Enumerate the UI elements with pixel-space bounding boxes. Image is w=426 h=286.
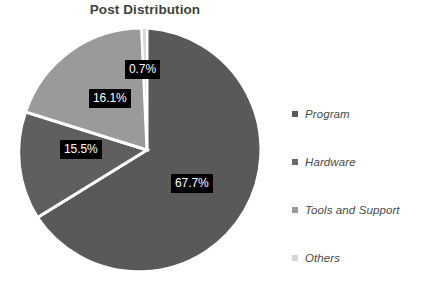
pie-chart-figure: Post Distribution 67.7% 15.5% 16.1% 0.7%…	[0, 0, 426, 286]
pie-plot-area: 67.7% 15.5% 16.1% 0.7%	[0, 0, 300, 286]
chart-legend: Program Hardware Tools and Support Other…	[292, 90, 426, 282]
legend-swatch-icon	[292, 111, 298, 117]
legend-swatch-icon	[292, 159, 298, 165]
legend-label: Others	[305, 252, 340, 264]
legend-swatch-icon	[292, 255, 298, 261]
data-label-others: 0.7%	[125, 60, 160, 79]
data-label-tools-and-support: 16.1%	[89, 89, 131, 108]
legend-item-tools-and-support[interactable]: Tools and Support	[292, 186, 426, 234]
pie-svg	[0, 0, 300, 286]
legend-item-others[interactable]: Others	[292, 234, 426, 282]
data-label-program: 67.7%	[171, 174, 213, 193]
legend-label: Program	[305, 108, 350, 120]
legend-label: Hardware	[305, 156, 356, 168]
legend-item-hardware[interactable]: Hardware	[292, 138, 426, 186]
legend-label: Tools and Support	[305, 204, 400, 216]
legend-item-program[interactable]: Program	[292, 90, 426, 138]
data-label-hardware: 15.5%	[60, 140, 102, 159]
legend-swatch-icon	[292, 207, 298, 213]
